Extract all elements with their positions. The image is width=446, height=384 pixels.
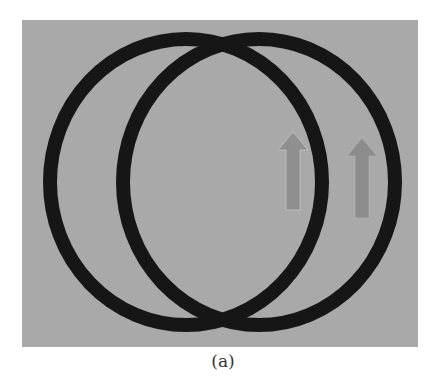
outer-up-arrow-icon [347,138,377,218]
overlapping-rings-diagram [0,0,446,384]
figure-caption: (a) [0,351,446,371]
left-ring [50,39,322,325]
inner-up-arrow-icon [278,132,308,210]
right-ring [123,39,395,325]
